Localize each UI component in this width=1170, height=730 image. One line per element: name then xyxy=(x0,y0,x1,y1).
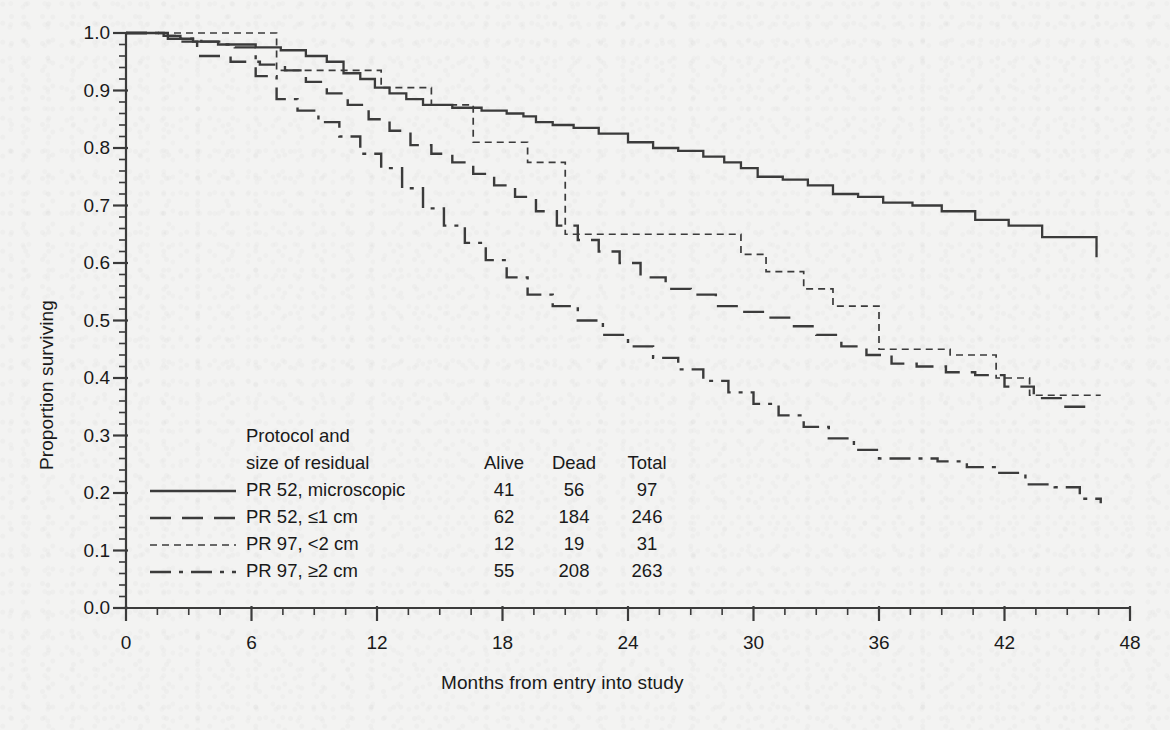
y-axis-tick-label: 1.0 xyxy=(64,22,110,44)
legend-header-protocol: Protocol and xyxy=(246,427,471,446)
y-axis-tick-label: 0.8 xyxy=(64,137,110,159)
legend-column-header-alive: Alive xyxy=(471,454,537,473)
legend-line-sample-solid xyxy=(150,484,236,498)
survival-curve-series-1 xyxy=(126,33,1092,410)
chart-legend: Protocol and size of residual Alive Dead… xyxy=(150,423,683,585)
survival-curve-plot xyxy=(0,0,1170,730)
x-axis-tick-label: 24 xyxy=(608,632,648,654)
y-axis-tick-label: 0.4 xyxy=(64,367,110,389)
legend-series-name: PR 52, ≤1 cm xyxy=(246,508,471,527)
legend-dead-count: 19 xyxy=(537,535,611,554)
y-axis-title: Proportion surviving xyxy=(36,300,58,470)
survival-curve-series-2 xyxy=(126,33,1101,395)
legend-alive-count: 12 xyxy=(471,535,537,554)
y-axis-tick-label: 0.7 xyxy=(64,195,110,217)
x-axis-tick-label: 30 xyxy=(734,632,774,654)
y-axis-tick-label: 0.2 xyxy=(64,482,110,504)
x-axis-tick-label: 0 xyxy=(106,632,146,654)
legend-line-sample-dash-dot xyxy=(150,565,236,579)
x-axis-tick-label: 12 xyxy=(357,632,397,654)
legend-total-count: 263 xyxy=(611,562,683,581)
legend-total-count: 246 xyxy=(611,508,683,527)
y-axis-tick-label: 0.6 xyxy=(64,252,110,274)
y-axis-tick-label: 0.5 xyxy=(64,310,110,332)
legend-dead-count: 184 xyxy=(537,508,611,527)
legend-column-header-dead: Dead xyxy=(537,454,611,473)
legend-row-container: PR 52, microscopic415697PR 52, ≤1 cm6218… xyxy=(150,477,683,585)
legend-alive-count: 41 xyxy=(471,481,537,500)
figure-root: Proportion surviving Months from entry i… xyxy=(0,0,1170,730)
legend-alive-count: 62 xyxy=(471,508,537,527)
y-axis-tick-label: 0.0 xyxy=(64,597,110,619)
legend-row: PR 97, <2 cm121931 xyxy=(150,531,683,558)
legend-line-sample-long-dash xyxy=(150,511,236,525)
legend-dead-count: 208 xyxy=(537,562,611,581)
legend-row: PR 97, ≥2 cm55208263 xyxy=(150,558,683,585)
legend-header-size: size of residual xyxy=(246,454,471,473)
x-axis-tick-label: 36 xyxy=(859,632,899,654)
legend-total-count: 31 xyxy=(611,535,683,554)
x-axis-tick-label: 48 xyxy=(1110,632,1150,654)
x-axis-tick-label: 42 xyxy=(985,632,1025,654)
legend-header-row-1: Protocol and xyxy=(150,423,683,450)
legend-line-sample-fine-dot xyxy=(150,538,236,552)
legend-header-row-2: size of residual Alive Dead Total xyxy=(150,450,683,477)
y-axis-tick-label: 0.1 xyxy=(64,540,110,562)
legend-row: PR 52, microscopic415697 xyxy=(150,477,683,504)
survival-curve-series-0 xyxy=(126,33,1097,257)
y-axis-tick-label: 0.9 xyxy=(64,80,110,102)
legend-series-name: PR 52, microscopic xyxy=(246,481,471,500)
x-axis-tick-label: 6 xyxy=(232,632,272,654)
legend-total-count: 97 xyxy=(611,481,683,500)
legend-series-name: PR 97, <2 cm xyxy=(246,535,471,554)
y-axis-tick-label: 0.3 xyxy=(64,425,110,447)
legend-dead-count: 56 xyxy=(537,481,611,500)
legend-row: PR 52, ≤1 cm62184246 xyxy=(150,504,683,531)
legend-sample-blank xyxy=(150,457,236,471)
legend-sample-blank xyxy=(150,430,236,444)
x-axis-tick-label: 18 xyxy=(483,632,523,654)
legend-column-header-total: Total xyxy=(611,454,683,473)
legend-alive-count: 55 xyxy=(471,562,537,581)
legend-series-name: PR 97, ≥2 cm xyxy=(246,562,471,581)
x-axis-title: Months from entry into study xyxy=(441,672,684,694)
